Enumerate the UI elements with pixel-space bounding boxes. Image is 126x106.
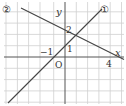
- x-axis-label: x: [115, 47, 121, 58]
- coordinate-graph: ② ① y x 2 1 −1 O 4: [0, 0, 126, 106]
- tick-y-1: 1: [67, 44, 73, 54]
- line-2-label: ②: [2, 4, 11, 15]
- line-1-label: ①: [100, 4, 109, 15]
- tick-x-neg1: −1: [40, 47, 53, 57]
- origin-label: O: [55, 60, 62, 70]
- tick-y-2: 2: [66, 25, 72, 35]
- y-axis-label: y: [55, 6, 62, 17]
- tick-x-4: 4: [106, 59, 112, 69]
